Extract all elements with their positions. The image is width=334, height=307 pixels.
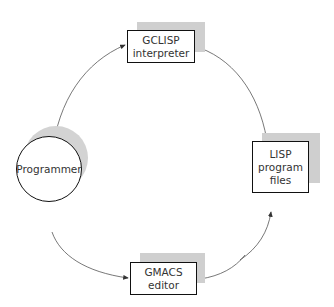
arrow-programmer-to-gmacs xyxy=(52,232,128,278)
gclisp-title: GCLISP xyxy=(142,34,179,47)
arrow-files-to-gclisp xyxy=(200,48,268,148)
gmacs-title: GMACS xyxy=(144,266,182,279)
gclisp-subtitle: interpreter xyxy=(133,47,190,60)
lisp-program-files-node: LISP program files xyxy=(252,141,309,193)
gmacs-editor-node: GMACS editor xyxy=(130,262,197,295)
gmacs-subtitle: editor xyxy=(148,279,179,292)
lisp-files-line3: files xyxy=(270,174,291,187)
gclisp-interpreter-node: GCLISP interpreter xyxy=(127,30,195,63)
arrow-files-to-gmacs xyxy=(200,255,245,279)
programmer-label: Programmer xyxy=(16,163,81,175)
diagram-canvas: GCLISP interpreter Programmer LISP progr… xyxy=(0,0,334,307)
lisp-files-line2: program xyxy=(258,161,303,174)
programmer-node: Programmer xyxy=(16,136,82,202)
lisp-files-line1: LISP xyxy=(270,148,292,161)
arrow-gmacs-to-files xyxy=(240,212,271,260)
